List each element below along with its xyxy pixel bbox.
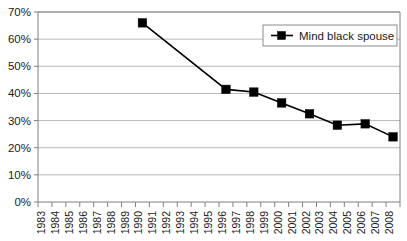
data-point-marker bbox=[138, 19, 147, 28]
line-chart: 0%10%20%30%40%50%60%70% 1983198419851986… bbox=[0, 0, 407, 241]
x-axis-labels: 1983198419851986198719881989199019911992… bbox=[35, 211, 395, 235]
data-point-marker bbox=[250, 88, 259, 97]
data-point-marker bbox=[389, 133, 398, 142]
x-tick-label: 1994 bbox=[188, 211, 200, 235]
x-tick-label: 2008 bbox=[383, 211, 395, 235]
chart-container: 0%10%20%30%40%50%60%70% 1983198419851986… bbox=[0, 0, 407, 241]
data-point-marker bbox=[305, 110, 314, 119]
x-tick-label: 1999 bbox=[258, 211, 270, 235]
legend-label: Mind black spouse bbox=[299, 30, 394, 42]
x-tick-label: 1988 bbox=[105, 211, 117, 235]
x-tick-label: 1990 bbox=[132, 211, 144, 235]
x-tick-label: 1987 bbox=[91, 211, 103, 235]
x-tick-label: 1992 bbox=[160, 211, 172, 235]
y-tick-label: 70% bbox=[8, 6, 31, 18]
x-tick-label: 2005 bbox=[341, 211, 353, 235]
x-tick-label: 1998 bbox=[244, 211, 256, 235]
x-tick-label: 1996 bbox=[216, 211, 228, 235]
x-tick-label: 1993 bbox=[174, 211, 186, 235]
chart-legend: Mind black spouse bbox=[263, 25, 397, 46]
x-tick-label: 2004 bbox=[327, 211, 339, 235]
x-tick-label: 2000 bbox=[272, 211, 284, 235]
x-tick-label: 1983 bbox=[35, 211, 47, 235]
x-axis-ticks bbox=[38, 202, 400, 207]
x-tick-label: 2003 bbox=[313, 211, 325, 235]
x-tick-label: 2001 bbox=[286, 211, 298, 235]
x-tick-label: 1997 bbox=[230, 211, 242, 235]
data-point-marker bbox=[222, 85, 231, 94]
y-tick-label: 60% bbox=[8, 33, 31, 45]
data-point-marker bbox=[277, 99, 286, 108]
x-tick-label: 1995 bbox=[202, 211, 214, 235]
y-tick-label: 10% bbox=[8, 169, 31, 181]
x-tick-label: 1985 bbox=[63, 211, 75, 235]
legend-marker-square bbox=[278, 32, 286, 40]
x-tick-label: 2007 bbox=[369, 211, 381, 235]
data-point-marker bbox=[333, 121, 342, 130]
y-tick-label: 20% bbox=[8, 142, 31, 154]
y-tick-label: 30% bbox=[8, 115, 31, 127]
y-axis-ticks bbox=[34, 12, 38, 202]
x-tick-label: 2006 bbox=[355, 211, 367, 235]
x-tick-label: 1986 bbox=[77, 211, 89, 235]
x-tick-label: 1991 bbox=[146, 211, 158, 235]
y-tick-label: 0% bbox=[14, 196, 31, 208]
x-tick-label: 2002 bbox=[300, 211, 312, 235]
y-axis-labels: 0%10%20%30%40%50%60%70% bbox=[8, 6, 31, 208]
data-point-marker bbox=[361, 120, 370, 129]
y-tick-label: 50% bbox=[8, 60, 31, 72]
x-tick-label: 1984 bbox=[49, 211, 61, 235]
x-tick-label: 1989 bbox=[119, 211, 131, 235]
y-tick-label: 40% bbox=[8, 87, 31, 99]
